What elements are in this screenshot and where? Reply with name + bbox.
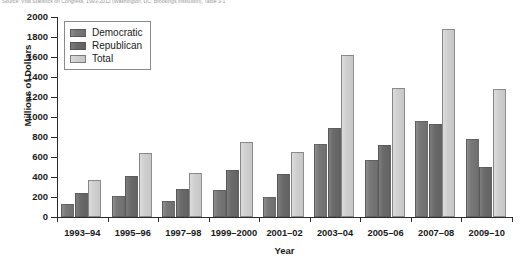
bar-total-200102 <box>291 152 304 217</box>
x-axis-tick <box>461 217 462 222</box>
x-axis-tick-label: 2009–10 <box>453 228 521 238</box>
bar-total-200304 <box>341 55 354 217</box>
bar-group <box>213 17 253 217</box>
bar-democratic-200506 <box>365 160 378 217</box>
bar-total-19992000 <box>240 142 253 217</box>
bar-group <box>415 17 455 217</box>
bar-republican-200102 <box>277 174 290 217</box>
bar-group <box>162 17 202 217</box>
bar-republican-199394 <box>75 193 88 217</box>
legend-swatch-republican-icon <box>70 42 86 50</box>
legend-item-total: Total <box>70 52 143 65</box>
bar-republican-199596 <box>125 176 138 217</box>
x-axis-tick <box>108 217 109 222</box>
x-axis-tick <box>512 217 513 222</box>
bar-republican-200506 <box>378 145 391 217</box>
bar-total-199596 <box>139 153 152 217</box>
bar-total-199394 <box>88 180 101 217</box>
bar-democratic-199798 <box>162 201 175 217</box>
bar-total-200910 <box>493 89 506 217</box>
bar-republican-200304 <box>328 128 341 217</box>
legend-item-democratic: Democratic <box>70 26 143 39</box>
x-axis-tick <box>360 217 361 222</box>
legend-label-total: Total <box>92 53 113 64</box>
x-axis-tick <box>158 217 159 222</box>
x-axis-tick <box>57 217 58 222</box>
y-axis-title: Millions of Dollars <box>22 11 33 161</box>
x-axis-title: Year <box>57 245 512 256</box>
bar-group <box>263 17 303 217</box>
legend-item-republican: Republican <box>70 39 143 52</box>
x-axis-tick <box>411 217 412 222</box>
legend-label-democratic: Democratic <box>92 27 143 38</box>
bar-democratic-199394 <box>61 204 74 217</box>
chart-legend: Democratic Republican Total <box>64 21 151 70</box>
x-axis-line <box>57 217 512 218</box>
bar-democratic-200708 <box>415 121 428 217</box>
legend-swatch-democratic-icon <box>70 29 86 37</box>
y-axis-tick-label: 400 <box>2 172 48 182</box>
bar-total-199798 <box>189 173 202 217</box>
legend-label-republican: Republican <box>92 40 142 51</box>
bar-democratic-200102 <box>263 197 276 217</box>
chart-figure: Source: Vital Statistics on Congress, 19… <box>0 0 522 263</box>
bar-republican-200910 <box>479 167 492 217</box>
bar-democratic-200910 <box>466 139 479 217</box>
y-axis-tick-label: 0 <box>2 212 48 222</box>
bar-total-200506 <box>392 88 405 217</box>
y-axis-tick-label: 200 <box>2 192 48 202</box>
bar-group <box>314 17 354 217</box>
bar-total-200708 <box>442 29 455 217</box>
source-caption-text: Source: Vital Statistics on Congress, 19… <box>0 0 522 5</box>
bar-democratic-19992000 <box>213 190 226 217</box>
bar-republican-200708 <box>429 124 442 217</box>
bar-group <box>365 17 405 217</box>
bar-democratic-200304 <box>314 144 327 217</box>
bar-democratic-199596 <box>112 196 125 217</box>
source-caption: Source: Vital Statistics on Congress, 19… <box>0 0 522 7</box>
x-axis-tick <box>310 217 311 222</box>
bar-group <box>466 17 506 217</box>
x-axis-tick <box>259 217 260 222</box>
bar-republican-199798 <box>176 189 189 217</box>
x-axis-tick <box>209 217 210 222</box>
bar-republican-19992000 <box>226 170 239 217</box>
legend-swatch-total-icon <box>70 55 86 63</box>
